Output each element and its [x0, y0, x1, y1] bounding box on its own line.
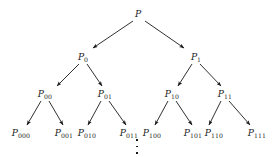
node-subscript: 110	[211, 132, 223, 139]
node-subscript: 010	[84, 132, 96, 139]
node-subscript: 0	[84, 56, 88, 63]
binary-tree-diagram: PP0P1P00P01P10P11P000P001P010P011P100P10…	[0, 0, 277, 157]
tree-node-label-n111: P111	[248, 128, 266, 137]
tree-node-label-n001: P001	[55, 128, 73, 137]
edge-layer	[27, 21, 250, 125]
node-subscript: 111	[254, 132, 266, 139]
ellipsis-dot	[136, 152, 138, 154]
tree-edge-n11-to-n111	[229, 101, 250, 125]
ellipsis-dot	[136, 146, 138, 148]
tree-node-label-n011: P011	[120, 128, 138, 137]
vertical-ellipsis-icon	[135, 139, 139, 154]
tree-edge-n00-to-n001	[49, 101, 63, 125]
tree-edge-n10-to-n101	[176, 101, 192, 125]
node-subscript: 1	[197, 56, 201, 63]
node-subscript: 001	[61, 132, 73, 139]
ellipsis-dot	[136, 139, 138, 141]
tree-node-label-n11: P11	[218, 89, 232, 98]
tree-node-label-n010: P010	[78, 128, 96, 137]
tree-node-label-n10: P10	[165, 89, 179, 98]
node-subscript: 10	[171, 93, 179, 100]
tree-edge-n11-to-n110	[209, 101, 221, 125]
tree-node-label-n100: P100	[143, 128, 161, 137]
node-subscript: 100	[149, 132, 161, 139]
node-subscript: 00	[44, 93, 52, 100]
tree-node-label-n000: P000	[12, 128, 30, 137]
node-subscript: 11	[224, 93, 232, 100]
tree-node-label-root: P	[135, 9, 141, 18]
tree-edges-canvas	[0, 0, 277, 157]
tree-node-label-n00: P00	[38, 89, 52, 98]
tree-edge-n01-to-n011	[109, 101, 126, 125]
tree-edge-n10-to-n100	[155, 101, 168, 125]
node-subscript: 101	[190, 132, 202, 139]
tree-edge-n00-to-n000	[27, 101, 41, 125]
tree-edge-n0-to-n00	[57, 64, 79, 86]
tree-node-label-n0: P0	[78, 52, 88, 61]
tree-node-label-n101: P101	[184, 128, 202, 137]
tree-node-label-n1: P1	[191, 52, 201, 61]
tree-edge-root-to-n1	[145, 21, 184, 48]
node-subscript: 01	[104, 93, 112, 100]
tree-edge-n01-to-n010	[88, 101, 101, 125]
tree-edge-n1-to-n11	[200, 64, 221, 86]
node-subscript: 000	[18, 132, 30, 139]
tree-node-label-n110: P110	[205, 128, 223, 137]
node-base-symbol: P	[135, 8, 141, 19]
tree-edge-n0-to-n01	[87, 64, 102, 86]
tree-node-label-n01: P01	[98, 89, 112, 98]
tree-edge-n1-to-n10	[178, 64, 192, 86]
tree-edge-root-to-n0	[93, 21, 133, 48]
